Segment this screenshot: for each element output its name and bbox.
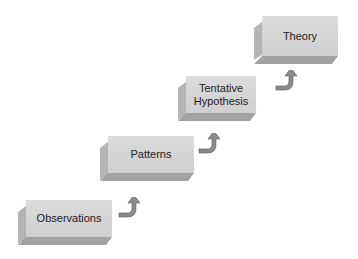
curved-arrow-icon (198, 133, 220, 155)
box-side (254, 22, 262, 60)
box-front: Patterns (108, 136, 194, 173)
step-label: Tentative Hypothesis (186, 82, 256, 108)
step-patterns: Patterns (100, 136, 196, 182)
box-bottom (254, 56, 338, 64)
step-observations: Observations (18, 200, 114, 246)
box-front: Observations (26, 200, 112, 237)
step-label: Observations (37, 212, 102, 225)
box-front: Theory (262, 16, 338, 56)
step-tentative-hypothesis: Tentative Hypothesis (178, 76, 274, 122)
step-label: Patterns (131, 148, 172, 161)
box-bottom (18, 237, 112, 245)
step-theory: Theory (254, 16, 344, 66)
curved-arrow-icon (118, 197, 140, 219)
curved-arrow-icon (275, 70, 297, 92)
box-bottom (100, 173, 194, 181)
step-label: Theory (283, 30, 317, 43)
box-bottom (178, 113, 256, 121)
box-front: Tentative Hypothesis (186, 76, 256, 113)
